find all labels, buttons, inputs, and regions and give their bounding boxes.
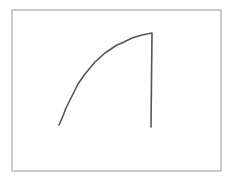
plot-frame — [12, 10, 221, 171]
data-line — [59, 33, 152, 127]
chart — [0, 0, 232, 177]
